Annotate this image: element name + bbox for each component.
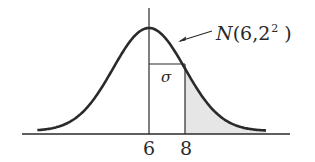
distribution-plot: σ 6 8 N(6,22) [0, 0, 315, 162]
open-paren: ( [233, 22, 240, 44]
distribution-label: N(6,22) [215, 22, 292, 44]
sd-value: 2 [258, 22, 270, 44]
distribution-name: N [215, 22, 234, 44]
tick-label-6: 6 [143, 137, 155, 159]
label-pointer-arrowhead [178, 37, 186, 43]
mean-value: 6 [240, 22, 252, 44]
sigma-label: σ [161, 68, 172, 86]
tick-label-8: 8 [180, 137, 192, 159]
close-paren: ) [284, 22, 291, 44]
normal-distribution-figure: σ 6 8 N(6,22) [0, 0, 315, 162]
shaded-tail-region [185, 69, 266, 134]
exponent: 2 [271, 22, 278, 35]
